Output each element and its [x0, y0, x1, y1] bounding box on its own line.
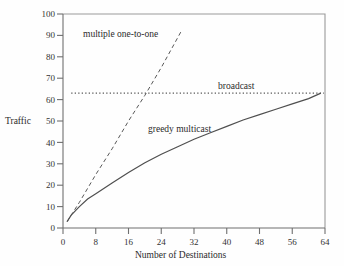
y-tick-label-60: 60 — [33, 95, 55, 105]
y-tick-label-50: 50 — [33, 116, 55, 126]
x-tick-label-64: 64 — [313, 237, 337, 247]
y-tick-label-100: 100 — [33, 9, 55, 19]
series-label-multiple-one-to-one: multiple one-to-one — [83, 29, 158, 39]
x-axis-title: Number of Destinations — [135, 250, 226, 260]
series-label-broadcast: broadcast — [218, 81, 254, 91]
y-tick-label-0: 0 — [33, 223, 55, 233]
x-tick-marks — [63, 228, 325, 234]
x-tick-label-24: 24 — [149, 237, 173, 247]
y-tick-label-80: 80 — [33, 52, 55, 62]
chart-figure: 100 90 80 70 60 50 40 30 20 10 0 0 8 16 … — [0, 0, 344, 266]
y-tick-marks — [57, 14, 63, 228]
x-tick-label-56: 56 — [280, 237, 304, 247]
plot-frame-top-right — [63, 14, 325, 228]
y-tick-label-40: 40 — [33, 138, 55, 148]
y-tick-label-90: 90 — [33, 30, 55, 40]
x-tick-label-40: 40 — [215, 237, 239, 247]
x-tick-label-48: 48 — [248, 237, 272, 247]
x-tick-label-16: 16 — [117, 237, 141, 247]
y-axis-title: Traffic — [5, 116, 31, 126]
series-label-greedy-multicast: greedy multicast — [148, 124, 211, 134]
x-tick-label-32: 32 — [182, 237, 206, 247]
series-greedy-multicast — [67, 93, 321, 222]
y-tick-label-10: 10 — [33, 202, 55, 212]
y-tick-label-20: 20 — [33, 180, 55, 190]
x-tick-label-8: 8 — [84, 237, 108, 247]
y-tick-label-30: 30 — [33, 159, 55, 169]
y-tick-label-70: 70 — [33, 73, 55, 83]
x-tick-label-0: 0 — [51, 237, 75, 247]
